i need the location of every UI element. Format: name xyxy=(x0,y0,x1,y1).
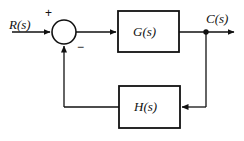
summing-junction-circle xyxy=(52,20,76,44)
input-signal-label: R(s) xyxy=(9,18,31,31)
feedback-block-label: H(s) xyxy=(134,100,157,113)
summing-junction-minus-sign: − xyxy=(77,41,84,53)
summing-junction-plus-sign: + xyxy=(45,7,52,19)
block-diagram-canvas: R(s) C(s) G(s) H(s) + − xyxy=(0,0,244,141)
output-signal-label: C(s) xyxy=(206,12,228,25)
forward-block-label: G(s) xyxy=(133,25,156,38)
